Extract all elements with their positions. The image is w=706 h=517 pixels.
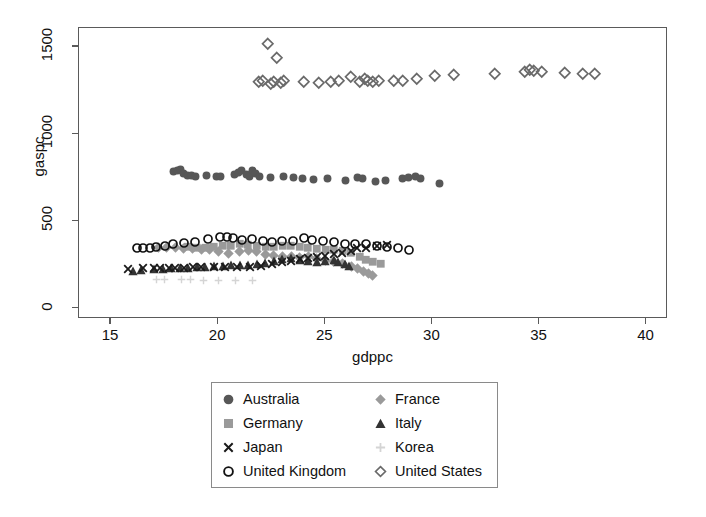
y-tick-label: 1500 — [38, 23, 55, 67]
legend-item-label: France — [395, 392, 440, 407]
data-point — [382, 242, 392, 252]
legend-item-united-states[interactable]: United States — [374, 464, 509, 479]
legend-item-france[interactable]: France — [374, 392, 509, 407]
filled-square-icon — [222, 417, 235, 430]
data-point — [397, 75, 409, 87]
data-point — [344, 261, 354, 271]
data-point — [309, 175, 318, 184]
data-point — [214, 276, 223, 285]
x-tick-label: 15 — [80, 326, 140, 343]
x-tick-label: 30 — [401, 326, 461, 343]
data-point — [307, 235, 317, 245]
data-point — [416, 174, 425, 183]
legend-entries: AustraliaFranceGermanyItalyJapanKoreaUni… — [212, 383, 497, 487]
data-point — [559, 67, 571, 79]
data-point — [393, 243, 403, 253]
data-point — [209, 262, 219, 272]
legend-item-label: United Kingdom — [243, 464, 346, 479]
cross-x-icon — [222, 441, 235, 454]
data-point — [448, 69, 460, 81]
data-point — [367, 270, 378, 281]
legend-item-label: Italy — [395, 416, 422, 431]
data-point — [289, 173, 298, 182]
data-point — [255, 172, 264, 181]
data-point — [340, 239, 350, 249]
data-point — [279, 172, 288, 181]
legend-item-label: Korea — [395, 440, 434, 455]
data-point — [341, 176, 350, 185]
data-point — [202, 171, 211, 180]
filled-diamond-icon — [374, 393, 387, 406]
data-point — [190, 237, 200, 247]
data-point — [245, 262, 255, 272]
data-point — [138, 263, 148, 273]
legend-item-label: United States — [395, 464, 482, 479]
data-points-layer — [79, 28, 666, 317]
data-point — [267, 237, 277, 247]
data-point — [231, 276, 240, 285]
legend-item-label: Australia — [243, 392, 299, 407]
scatter-plot-figure: gaspc gdppc 050010001500 152025303540 Au… — [0, 0, 706, 517]
data-point — [203, 234, 213, 244]
data-point — [216, 172, 225, 181]
data-point — [278, 75, 290, 87]
data-point — [248, 276, 257, 285]
data-point — [350, 239, 360, 249]
data-point — [373, 75, 385, 87]
legend-item-italy[interactable]: Italy — [374, 416, 509, 431]
data-point — [589, 68, 601, 80]
x-tick-label: 35 — [508, 326, 568, 343]
data-point — [168, 239, 178, 249]
x-tick-mark — [324, 318, 325, 324]
legend-item-united-kingdom[interactable]: United Kingdom — [222, 464, 374, 479]
data-point — [277, 236, 287, 246]
data-point — [429, 70, 441, 82]
open-circle-icon — [222, 465, 235, 478]
data-point — [232, 262, 242, 272]
data-point — [191, 172, 200, 181]
data-point — [376, 259, 386, 269]
open-diamond-icon — [374, 465, 387, 478]
data-point — [186, 275, 195, 284]
data-point — [329, 237, 339, 247]
y-tick-label: 0 — [38, 284, 55, 328]
y-tick-label: 1000 — [38, 110, 55, 154]
legend-item-germany[interactable]: Germany — [222, 416, 374, 431]
data-point — [411, 73, 423, 85]
filled-triangle-icon — [374, 417, 387, 430]
x-tick-label: 20 — [187, 326, 247, 343]
plus-icon — [374, 441, 387, 454]
data-point — [577, 68, 589, 80]
data-point — [247, 234, 257, 244]
data-point — [358, 174, 367, 183]
legend-item-japan[interactable]: Japan — [222, 440, 374, 455]
plot-area — [78, 27, 667, 318]
legend-item-label: Japan — [243, 440, 283, 455]
data-point — [298, 174, 307, 183]
data-point — [333, 75, 345, 87]
x-axis-title: gdppc — [78, 348, 667, 365]
data-point — [323, 174, 332, 183]
data-point — [262, 38, 274, 50]
data-point — [361, 239, 371, 249]
y-tick-label: 500 — [38, 197, 55, 241]
data-point — [237, 235, 247, 245]
data-point — [271, 52, 283, 64]
data-point — [220, 262, 230, 272]
data-point — [256, 261, 266, 271]
legend: AustraliaFranceGermanyItalyJapanKoreaUni… — [211, 382, 498, 488]
legend-item-australia[interactable]: Australia — [222, 392, 374, 407]
data-point — [318, 236, 328, 246]
data-point — [435, 179, 444, 188]
legend-item-korea[interactable]: Korea — [374, 440, 509, 455]
data-point — [381, 176, 390, 185]
x-tick-mark — [431, 318, 432, 324]
filled-circle-icon — [222, 393, 235, 406]
data-point — [536, 66, 548, 78]
x-tick-mark — [109, 318, 110, 324]
data-point — [179, 238, 189, 248]
x-tick-label: 40 — [616, 326, 676, 343]
data-point — [313, 77, 325, 89]
x-tick-label: 25 — [294, 326, 354, 343]
data-point — [123, 264, 133, 274]
